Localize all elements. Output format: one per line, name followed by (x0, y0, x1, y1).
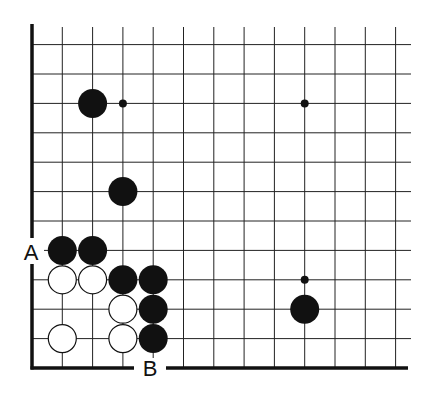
black-stone-icon (139, 295, 168, 324)
black-stone-icon (290, 295, 319, 324)
board-grid (22, 24, 411, 378)
star-point-icon (119, 99, 127, 107)
black-stone-icon (108, 265, 137, 294)
black-stone-icon (108, 177, 137, 206)
label-a: A (20, 242, 42, 264)
go-board-diagram (0, 0, 434, 398)
star-point-icon (301, 99, 309, 107)
black-stone-icon (48, 236, 77, 265)
black-stone-icon (139, 324, 168, 353)
white-stone-icon (79, 266, 107, 294)
black-stone-icon (78, 236, 107, 265)
star-point-icon (301, 276, 309, 284)
white-stone-icon (109, 295, 137, 323)
white-stone-icon (109, 325, 137, 353)
white-stone-icon (48, 325, 76, 353)
black-stone-icon (139, 265, 168, 294)
black-stone-icon (78, 89, 107, 118)
white-stone-icon (48, 266, 76, 294)
label-b: B (136, 358, 164, 380)
